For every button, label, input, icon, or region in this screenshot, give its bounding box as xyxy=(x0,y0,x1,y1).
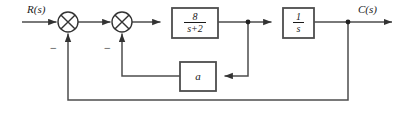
junction-dot-system-output xyxy=(346,20,351,25)
integrator-denominator: s xyxy=(293,23,304,35)
wire-gain-block-to-inner-sum xyxy=(122,34,180,77)
integrator-transfer-function-text: 1 s xyxy=(283,8,314,38)
junction-dot-plant-output xyxy=(246,20,251,25)
inner-feedback-gain-text: a xyxy=(180,62,216,91)
inner-sum-negative-sign: − xyxy=(104,42,111,54)
plant-numerator: 8 xyxy=(184,12,206,24)
integrator-numerator: 1 xyxy=(293,12,304,24)
wire-tap-to-gain-block xyxy=(225,22,249,76)
output-signal-label: C(s) xyxy=(358,4,377,15)
plant-denominator: s+2 xyxy=(184,23,206,35)
outer-sum-negative-sign: − xyxy=(50,42,57,54)
input-signal-label: R(s) xyxy=(27,4,45,15)
plant-transfer-function-text: 8 s+2 xyxy=(172,8,218,38)
block-diagram-canvas: R(s) C(s) − − 8 s+2 1 s a xyxy=(0,0,409,115)
